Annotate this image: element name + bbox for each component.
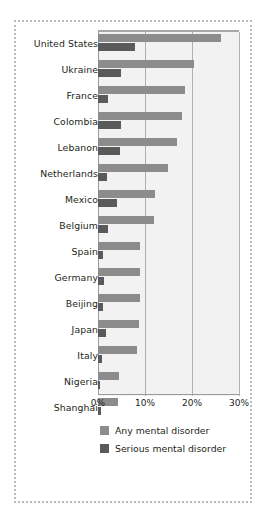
- bar-serious-mental-disorder: [98, 43, 135, 51]
- bar-row: France: [16, 82, 254, 108]
- bar-group: [98, 186, 239, 212]
- bar-any-mental-disorder: [98, 216, 154, 224]
- bar-group: [98, 160, 239, 186]
- chart-figure: United StatesUkraineFranceColombiaLebano…: [14, 20, 252, 503]
- category-label: Belgium: [59, 220, 98, 231]
- bar-rows: United StatesUkraineFranceColombiaLebano…: [16, 30, 254, 420]
- bar-serious-mental-disorder: [98, 303, 103, 311]
- category-label: Spain: [72, 246, 98, 257]
- legend-label-any: Any mental disorder: [115, 425, 209, 436]
- bar-group: [98, 238, 239, 264]
- bar-serious-mental-disorder: [98, 381, 100, 389]
- bar-any-mental-disorder: [98, 60, 194, 68]
- bar-group: [98, 342, 239, 368]
- bar-row: Germany: [16, 264, 254, 290]
- bar-group: [98, 264, 239, 290]
- category-label: United States: [34, 38, 98, 49]
- category-label: Nigeria: [64, 376, 98, 387]
- bar-serious-mental-disorder: [98, 121, 121, 129]
- bar-row: Netherlands: [16, 160, 254, 186]
- bar-any-mental-disorder: [98, 372, 119, 380]
- bar-row: Beijing: [16, 290, 254, 316]
- category-label: Beijing: [66, 298, 98, 309]
- x-axis-tick-labels: 0%10%20%30%: [98, 398, 239, 412]
- legend-label-serious: Serious mental disorder: [115, 443, 226, 454]
- bar-row: Belgium: [16, 212, 254, 238]
- legend-item-serious: Serious mental disorder: [100, 440, 250, 456]
- category-label: Mexico: [65, 194, 98, 205]
- bar-row: Lebanon: [16, 134, 254, 160]
- bar-serious-mental-disorder: [98, 173, 107, 181]
- bar-group: [98, 82, 239, 108]
- bar-any-mental-disorder: [98, 320, 139, 328]
- bar-any-mental-disorder: [98, 86, 185, 94]
- legend-swatch-any-icon: [100, 426, 109, 435]
- bar-group: [98, 134, 239, 160]
- category-label: Italy: [77, 350, 98, 361]
- x-tick-label: 0%: [91, 398, 105, 408]
- bar-serious-mental-disorder: [98, 95, 108, 103]
- category-label: Lebanon: [57, 142, 98, 153]
- bar-row: Ukraine: [16, 56, 254, 82]
- bar-any-mental-disorder: [98, 190, 155, 198]
- category-label: Germany: [55, 272, 98, 283]
- bar-any-mental-disorder: [98, 164, 168, 172]
- category-label: France: [66, 90, 98, 101]
- x-tick-label: 30%: [229, 398, 249, 408]
- bar-any-mental-disorder: [98, 242, 140, 250]
- category-label: Netherlands: [40, 168, 98, 179]
- bar-serious-mental-disorder: [98, 329, 106, 337]
- bar-row: Japan: [16, 316, 254, 342]
- bar-group: [98, 368, 239, 394]
- bar-any-mental-disorder: [98, 34, 221, 42]
- plot-area: United StatesUkraineFranceColombiaLebano…: [16, 22, 254, 505]
- x-tick-label: 20%: [182, 398, 202, 408]
- bar-any-mental-disorder: [98, 294, 140, 302]
- bar-serious-mental-disorder: [98, 225, 108, 233]
- bar-row: Spain: [16, 238, 254, 264]
- bar-serious-mental-disorder: [98, 69, 121, 77]
- bar-any-mental-disorder: [98, 346, 137, 354]
- bar-serious-mental-disorder: [98, 355, 102, 363]
- category-label: Japan: [72, 324, 98, 335]
- bar-group: [98, 108, 239, 134]
- bar-serious-mental-disorder: [98, 251, 103, 259]
- bar-group: [98, 212, 239, 238]
- bar-group: [98, 56, 239, 82]
- bar-group: [98, 30, 239, 56]
- chart-legend: Any mental disorder Serious mental disor…: [100, 422, 250, 458]
- bar-any-mental-disorder: [98, 138, 177, 146]
- bar-row: Mexico: [16, 186, 254, 212]
- bar-group: [98, 316, 239, 342]
- bar-serious-mental-disorder: [98, 199, 117, 207]
- bar-any-mental-disorder: [98, 268, 140, 276]
- bar-serious-mental-disorder: [98, 277, 104, 285]
- bar-row: Colombia: [16, 108, 254, 134]
- legend-swatch-serious-icon: [100, 444, 109, 453]
- x-tick-label: 10%: [135, 398, 155, 408]
- bar-row: Nigeria: [16, 368, 254, 394]
- category-label: Ukraine: [61, 64, 98, 75]
- legend-item-any: Any mental disorder: [100, 422, 250, 438]
- bar-serious-mental-disorder: [98, 147, 120, 155]
- bar-any-mental-disorder: [98, 112, 182, 120]
- bar-row: United States: [16, 30, 254, 56]
- category-label: Colombia: [54, 116, 99, 127]
- bar-row: Italy: [16, 342, 254, 368]
- bar-group: [98, 290, 239, 316]
